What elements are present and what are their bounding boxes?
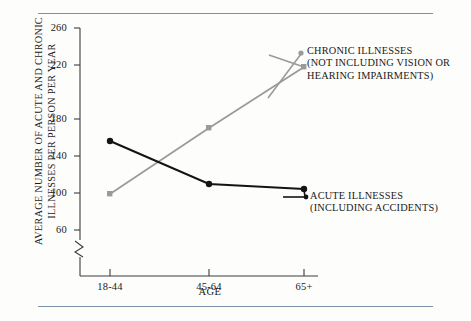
- data-point-acute-45-64: [206, 181, 212, 187]
- x-tick-label-65plus: 65+: [274, 281, 334, 292]
- series-label-chronic-line2: (NOT INCLUDING VISION OR: [307, 57, 450, 69]
- chart-figure: 260 220 180 140 100 60 18-44 45-64 65+ A…: [0, 0, 471, 321]
- series-label-chronic-line1: CHRONIC ILLNESSES: [307, 45, 450, 57]
- y-axis-label: AVERAGE NUMBER OF ACUTE AND CHRONIC ILLN…: [32, 14, 58, 249]
- y-tick-marks: [74, 28, 80, 230]
- series-label-acute-line1: ACUTE ILLNESSES: [310, 190, 438, 202]
- axis-break-symbol: [75, 240, 85, 257]
- x-tick-label-18-44: 18-44: [80, 281, 140, 292]
- series-acute: [107, 138, 307, 192]
- x-tick-marks: [110, 269, 304, 276]
- series-label-acute-line2: (INCLUDING ACCIDENTS): [310, 202, 438, 214]
- acute-label-anchor-dot: [304, 195, 309, 200]
- series-chronic: [107, 64, 306, 196]
- series-label-chronic: CHRONIC ILLNESSES (NOT INCLUDING VISION …: [307, 45, 450, 82]
- x-axis-label: AGE: [175, 286, 245, 297]
- y-axis-label-line2: ILLNESSES PER PERSON PER YEAR: [45, 14, 58, 249]
- data-point-chronic-18-44: [107, 191, 112, 196]
- data-point-chronic-45-64: [206, 125, 211, 130]
- series-label-chronic-line3: HEARING IMPAIRMENTS): [307, 70, 450, 82]
- data-point-acute-18-44: [107, 138, 113, 144]
- y-axis-label-line1: AVERAGE NUMBER OF ACUTE AND CHRONIC: [32, 14, 45, 249]
- series-label-acute: ACUTE ILLNESSES (INCLUDING ACCIDENTS): [310, 190, 438, 215]
